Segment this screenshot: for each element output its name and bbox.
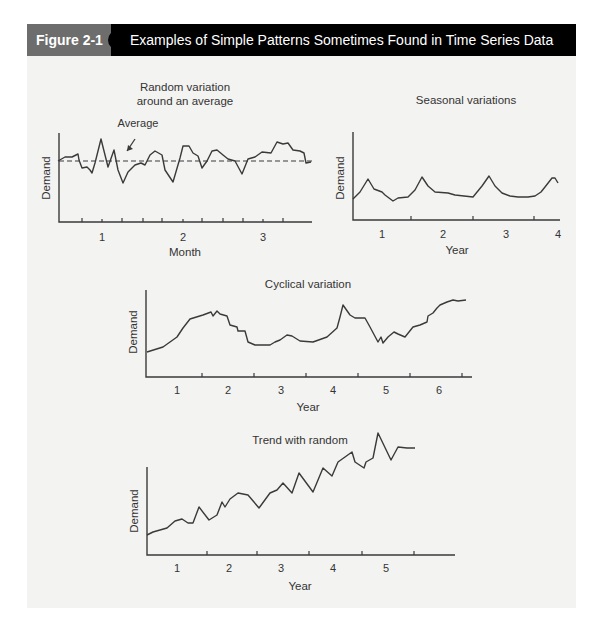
data-series-line: [58, 139, 311, 183]
x-tick-label: 5: [383, 562, 389, 574]
axes: [147, 467, 455, 555]
x-tick-label: 2: [226, 562, 232, 574]
axes: [353, 132, 560, 220]
x-tick-label: 1: [379, 228, 385, 240]
x-tick-label: 4: [555, 228, 561, 240]
chart-title: Random variation: [140, 81, 230, 93]
x-tick-label: 5: [383, 384, 389, 396]
x-axis-label: Year: [445, 244, 468, 256]
random-variation-chart: 123MonthDemandRandom variationaround an …: [40, 81, 312, 258]
x-tick-label: 4: [330, 384, 336, 396]
x-tick-label: 1: [174, 562, 180, 574]
x-tick-label: 2: [225, 384, 231, 396]
seasonal-variation-chart: 1234YearDemandSeasonal variations: [334, 94, 561, 256]
data-series-line: [147, 433, 415, 535]
average-annotation: Average: [118, 117, 159, 129]
data-series-line: [147, 300, 466, 352]
x-tick-label: 6: [436, 384, 442, 396]
x-tick-label: 3: [260, 231, 266, 243]
x-tick-label: 3: [278, 562, 284, 574]
x-tick-label: 2: [180, 231, 186, 243]
y-axis-label: Demand: [127, 310, 139, 353]
x-tick-label: 4: [330, 562, 336, 574]
axes: [146, 290, 472, 377]
chart-title: Seasonal variations: [416, 94, 517, 106]
data-series-line: [353, 176, 558, 201]
chart-title: Cyclical variation: [265, 278, 351, 290]
cyclical-variation-chart: 123456YearDemandCyclical variation: [127, 278, 472, 413]
y-axis-label: Demand: [40, 156, 52, 199]
chart-title: Trend with random: [252, 434, 347, 446]
charts-canvas: 123MonthDemandRandom variationaround an …: [0, 0, 604, 624]
x-tick-label: 3: [503, 228, 509, 240]
y-axis-label: Demand: [334, 156, 346, 199]
chart-title: around an average: [137, 95, 234, 107]
x-axis-label: Year: [288, 580, 311, 592]
x-axis-label: Year: [296, 401, 319, 413]
x-tick-label: 3: [278, 384, 284, 396]
y-axis-label: Demand: [128, 489, 140, 532]
x-tick-label: 1: [174, 384, 180, 396]
x-tick-label: 2: [440, 228, 446, 240]
trend-with-random-chart: 12345YearDemandTrend with random: [128, 433, 455, 592]
x-axis-label: Month: [169, 246, 201, 258]
x-tick-label: 1: [99, 231, 105, 243]
